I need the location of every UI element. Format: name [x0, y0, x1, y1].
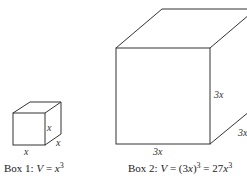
box2-height-label: 3x [213, 89, 224, 100]
box1-front-face [13, 113, 45, 145]
box1-height-label: x [46, 122, 52, 133]
box2-caption: Box 2: V = (3x)3 = 27x3 [128, 161, 232, 175]
box1-cube [13, 102, 61, 145]
box1-caption: Box 1: V = x3 [4, 161, 64, 174]
box2-top-face [116, 9, 247, 48]
cube-comparison-diagram: x x x Box 1: V = x3 3x 3x 3x Box 2: V = … [0, 0, 247, 189]
box2-cube [116, 9, 247, 144]
box2-depth-label: 3x [237, 127, 247, 138]
box1-depth-label: x [55, 137, 61, 148]
box2-top-right-edge [210, 14, 247, 48]
box2-front-face [116, 48, 210, 144]
box1-top-face [13, 102, 61, 113]
box1-width-label: x [23, 146, 29, 157]
box2-width-label: 3x [152, 146, 163, 157]
